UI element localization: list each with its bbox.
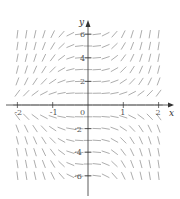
slope-segment: [41, 78, 47, 84]
slope-segment: [121, 30, 125, 38]
y-tick-label: -4: [74, 148, 82, 157]
slope-segment: [26, 30, 27, 38]
slope-segment: [120, 67, 126, 73]
y-tick-label: -2: [74, 125, 82, 134]
slope-segment: [75, 46, 83, 47]
slope-segment: [131, 172, 134, 180]
slope-segment: [51, 42, 55, 49]
slope-segment: [42, 137, 47, 144]
slope-segment: [42, 148, 46, 156]
slope-segment: [158, 136, 160, 144]
slope-segment: [111, 43, 117, 49]
slope-segment: [58, 150, 65, 155]
slope-segment: [121, 149, 126, 156]
slope-segment: [23, 90, 29, 96]
slope-segment: [128, 115, 135, 119]
slope-segment: [131, 160, 134, 168]
slope-segment: [50, 149, 55, 156]
slope-segment: [40, 91, 47, 95]
slope-segment: [16, 125, 19, 133]
slope-segment: [130, 137, 135, 144]
slope-segment: [33, 66, 36, 74]
slope-segment: [42, 54, 46, 62]
slope-segment: [59, 173, 65, 179]
slope-segment: [66, 81, 74, 82]
slope-segment: [41, 126, 47, 132]
slope-segment: [128, 91, 135, 95]
slope-segment: [111, 161, 117, 167]
slope-segment: [25, 42, 27, 50]
slope-segment: [157, 125, 160, 133]
slope-segment: [140, 160, 142, 168]
slope-segment: [34, 148, 37, 156]
slope-segment: [17, 54, 19, 62]
slope-segment: [51, 30, 55, 38]
slope-segment: [34, 30, 36, 38]
slope-segment: [110, 92, 118, 94]
slope-segment: [25, 148, 27, 156]
slope-segment: [93, 140, 101, 141]
slope-segment: [158, 148, 160, 156]
slope-segment: [16, 136, 18, 144]
slope-segment: [131, 42, 134, 50]
slope-field-diagram: x y -2-1012642-2-4-6: [0, 0, 180, 199]
slope-segment: [58, 138, 65, 142]
slope-segment: [66, 139, 74, 141]
slope-segment: [120, 79, 127, 84]
slope-segment: [17, 148, 19, 156]
y-axis-label: y: [78, 17, 85, 27]
slope-segment: [66, 162, 74, 165]
slope-segment: [157, 77, 160, 85]
slope-segment: [102, 128, 110, 129]
slope-segment: [158, 42, 159, 50]
slope-segment: [42, 160, 45, 168]
slope-segment: [58, 80, 66, 83]
slope-segment: [101, 93, 109, 94]
x-axis-arrow-icon: [168, 103, 174, 108]
slope-segment: [93, 69, 101, 70]
slope-segment: [111, 138, 118, 142]
slope-segment: [111, 127, 119, 130]
slope-segment: [49, 126, 56, 131]
slope-segment: [149, 42, 151, 50]
slope-segment: [102, 44, 110, 47]
slope-segment: [148, 78, 152, 86]
slope-segment: [66, 44, 74, 47]
slope-segment: [147, 90, 153, 96]
slope-segment: [32, 114, 39, 119]
slope-segment: [66, 56, 74, 59]
slope-segment: [16, 66, 18, 74]
slope-segment: [66, 93, 74, 94]
slope-segment: [121, 54, 126, 61]
slope-segment: [158, 54, 160, 62]
slope-segment: [102, 151, 110, 154]
slope-segment: [66, 116, 74, 117]
slope-segment: [149, 54, 151, 62]
slope-segment: [25, 66, 28, 74]
slope-segment: [140, 172, 142, 180]
slope-segment: [149, 30, 150, 38]
slope-segment: [34, 160, 36, 168]
tick-marks: -2-1012642-2-4-6: [14, 30, 160, 181]
slope-segment: [102, 174, 110, 178]
slope-segment: [139, 137, 142, 145]
slope-segment: [93, 34, 101, 35]
slope-segment: [50, 67, 56, 73]
slope-segment: [101, 116, 109, 117]
slope-segment: [112, 31, 118, 37]
slope-segment: [93, 175, 101, 176]
slope-segment: [139, 125, 144, 132]
slope-segment: [58, 55, 65, 60]
slope-segment: [58, 43, 64, 49]
slope-segment: [50, 54, 55, 61]
slope-segment: [25, 54, 27, 62]
slope-segment: [120, 126, 127, 131]
slope-segment: [131, 30, 134, 38]
y-tick-label: 6: [80, 30, 85, 39]
y-tick-label: 4: [80, 54, 85, 63]
slope-segment: [158, 66, 160, 74]
slope-segment: [59, 31, 65, 37]
slope-segment: [102, 162, 110, 165]
slope-segment: [33, 78, 38, 85]
slope-segment: [93, 57, 101, 58]
